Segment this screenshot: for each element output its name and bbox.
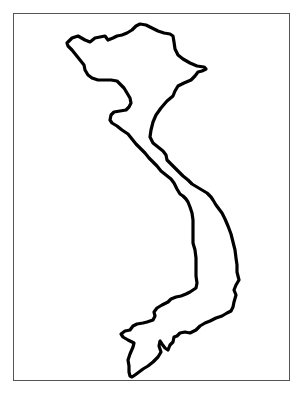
vietnam-map — [0, 0, 305, 398]
country-outline — [67, 24, 239, 377]
